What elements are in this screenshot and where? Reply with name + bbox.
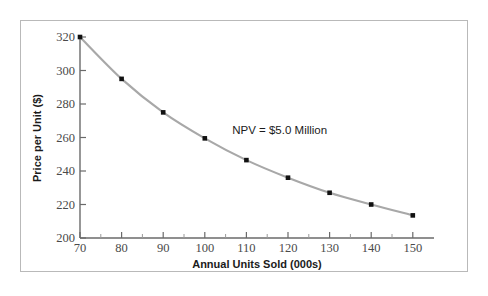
- data-point-marker: [369, 202, 374, 207]
- y-axis-ticks: [80, 37, 86, 238]
- x-tick-label: 150: [403, 241, 422, 255]
- data-point-marker: [119, 77, 124, 82]
- x-axis-tick-labels: 70 80 90 100 110 120 130 140 150: [74, 241, 422, 255]
- y-tick-label: 220: [56, 198, 75, 212]
- y-tick-label: 320: [56, 30, 75, 44]
- y-tick-label: 240: [56, 164, 75, 178]
- chart-canvas: 200 220 240 260 280 300 320: [0, 0, 488, 296]
- y-tick-label: 260: [56, 131, 75, 145]
- x-axis-title: Annual Units Sold (000s): [192, 258, 322, 270]
- y-tick-label: 280: [56, 97, 75, 111]
- data-point-marker: [244, 158, 249, 163]
- figure-root: 200 220 240 260 280 300 320: [0, 0, 488, 296]
- y-tick-label: 200: [56, 231, 75, 245]
- data-point-marker: [203, 136, 208, 141]
- x-tick-label: 90: [157, 241, 170, 255]
- x-tick-label: 130: [320, 241, 339, 255]
- data-point-marker: [161, 110, 166, 115]
- data-point-marker: [286, 175, 291, 180]
- x-tick-label: 120: [279, 241, 298, 255]
- data-point-marker: [78, 35, 83, 40]
- y-tick-label: 300: [56, 64, 75, 78]
- x-tick-label: 100: [195, 241, 214, 255]
- data-point-marker: [411, 213, 416, 218]
- x-axis-ticks: [80, 232, 413, 238]
- npv-annotation-label: NPV = $5.0 Million: [232, 124, 327, 136]
- data-point-marker: [327, 190, 332, 195]
- y-axis-title: Price per Unit ($): [31, 94, 43, 182]
- y-axis-tick-labels: 200 220 240 260 280 300 320: [56, 30, 75, 245]
- x-tick-label: 110: [237, 241, 255, 255]
- x-tick-label: 140: [362, 241, 381, 255]
- x-tick-label: 70: [74, 241, 87, 255]
- x-tick-label: 80: [115, 241, 128, 255]
